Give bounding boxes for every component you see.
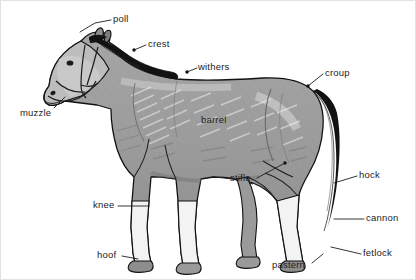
stifle-dot (283, 161, 286, 164)
horse-anatomy-diagram: pollcrestwitherscroupmuzzlebarrelstifleh… (0, 0, 416, 280)
label-barrel: barrel (201, 115, 227, 125)
label-hock: hock (359, 170, 380, 180)
crest-dot (132, 48, 135, 51)
withers-dot (185, 70, 188, 73)
label-crest: crest (148, 39, 170, 49)
leader-line-fetlock (331, 247, 361, 254)
croup-dot (306, 84, 309, 87)
hoof-hind-near (236, 257, 260, 268)
leader-line-poll (80, 20, 111, 32)
leader-line-crest (134, 45, 146, 50)
horse-illustration (1, 1, 416, 280)
label-knee: knee (93, 200, 114, 210)
label-muzzle: muzzle (20, 108, 51, 118)
leader-line-croup (308, 74, 323, 86)
label-cannon: cannon (366, 213, 398, 223)
label-stifle: stifle (230, 173, 251, 183)
label-fetlock: fetlock (363, 248, 392, 258)
label-withers: withers (198, 62, 230, 72)
leader-line-pastern (312, 254, 323, 263)
label-croup: croup (325, 68, 350, 78)
hoof-front-near (128, 261, 153, 272)
eye (67, 60, 74, 65)
label-poll: poll (113, 14, 129, 24)
label-pastern: pastern (272, 260, 305, 270)
label-hoof: hoof (97, 250, 116, 260)
hoof-front-off (176, 263, 201, 274)
